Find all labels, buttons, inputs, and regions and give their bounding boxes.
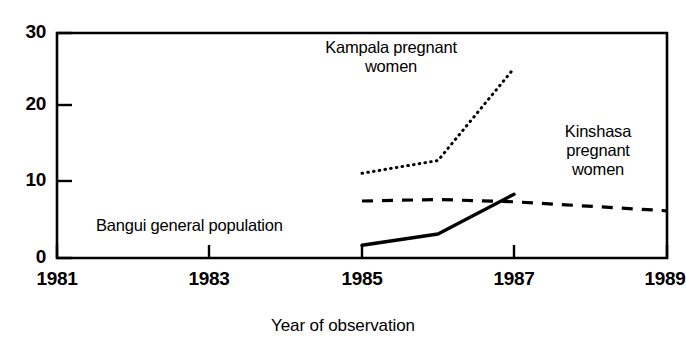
x-tick-label-1981: 1981: [12, 268, 102, 290]
x-tick-label-1985: 1985: [317, 268, 407, 290]
series-label-kinshasa: Kinshasa pregnant women: [534, 122, 662, 179]
series-label-bangui: Bangui general population: [96, 216, 326, 235]
series-label-kampala: Kampala pregnant women: [296, 38, 486, 76]
y-tick-label-20: 20: [2, 93, 46, 115]
x-axis-title: Year of observation: [0, 316, 686, 336]
x-tick-label-1989: 1989: [620, 268, 686, 290]
y-tick-label-30: 30: [2, 21, 46, 43]
y-axis-ticks: [57, 33, 72, 258]
y-tick-label-10: 10: [2, 169, 46, 191]
x-tick-label-1983: 1983: [164, 268, 254, 290]
chart-figure: 30 20 10 0 1981 1983 1985 1987 1989 Year…: [0, 0, 686, 354]
series-kinshasa-pregnant-women: [362, 200, 667, 211]
x-tick-label-1987: 1987: [469, 268, 559, 290]
series-kampala-pregnant-women: [362, 68, 514, 173]
y-tick-label-0: 0: [2, 246, 46, 268]
